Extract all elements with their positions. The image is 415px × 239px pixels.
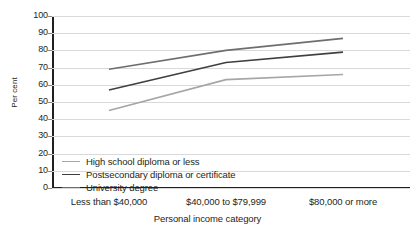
y-axis-tickmark [48, 188, 52, 189]
series-line-1 [109, 52, 343, 90]
legend-swatch-line-icon [62, 187, 80, 188]
y-axis-tick-labels: 1009080706050403020100 [22, 0, 48, 239]
legend-swatch-line-icon [62, 161, 80, 162]
legend-item[interactable]: Postsecondary diploma or certificate [62, 168, 236, 181]
legend-item[interactable]: University degree [62, 181, 236, 194]
legend-item[interactable]: High school diploma or less [62, 155, 236, 168]
x-axis-tick-label: Less than $40,000 [49, 196, 169, 207]
series-line-0 [109, 74, 343, 110]
line-chart: Per cent 1009080706050403020100 High sch… [0, 0, 415, 239]
x-axis-title: Personal income category [0, 213, 415, 224]
y-axis-tick-label: 40 [24, 114, 48, 123]
legend-swatch-line-icon [62, 174, 80, 175]
legend-item-label: High school diploma or less [86, 155, 199, 168]
y-axis-tick-label: 50 [24, 97, 48, 106]
series-line-2 [109, 38, 343, 69]
y-axis-tick-label: 90 [24, 28, 48, 37]
x-axis-tick-label: $40,000 to $79,999 [166, 196, 286, 207]
y-axis-title: Per cent [10, 58, 19, 128]
y-axis-tick-label: 60 [24, 80, 48, 89]
x-axis-tick-label: $80,000 or more [283, 196, 403, 207]
y-axis-tick-label: 30 [24, 131, 48, 140]
y-axis-tick-label: 80 [24, 45, 48, 54]
y-axis-tick-label: 10 [24, 166, 48, 175]
legend-item-label: University degree [86, 181, 158, 194]
legend-item-label: Postsecondary diploma or certificate [86, 168, 236, 181]
y-axis-tick-label: 20 [24, 149, 48, 158]
y-axis-tick-label: 70 [24, 63, 48, 72]
y-axis-tick-label: 0 [24, 183, 48, 192]
legend: High school diploma or lessPostsecondary… [62, 155, 236, 194]
y-axis-tick-label: 100 [24, 11, 48, 20]
